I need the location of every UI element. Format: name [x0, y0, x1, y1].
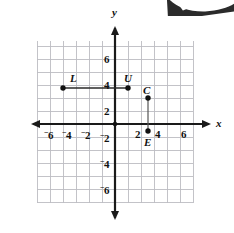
y-tick-6: 6	[104, 54, 110, 65]
point-U	[125, 85, 130, 90]
point-E	[145, 128, 150, 133]
point-C	[145, 95, 150, 100]
x-tick-neg2: −2	[81, 129, 91, 141]
x-axis	[31, 120, 211, 128]
x-tick-6: 6	[181, 129, 187, 140]
x-tick-2: 2	[135, 129, 141, 140]
y-tick-neg4: −4	[100, 158, 110, 170]
y-tick-neg6: −6	[100, 184, 110, 196]
y-tick-2: 2	[104, 106, 110, 117]
plot-area	[0, 0, 234, 233]
y-tick-4: 4	[104, 80, 110, 91]
x-tick-4: 4	[155, 129, 161, 140]
point-label-U: U	[124, 73, 132, 84]
point-label-L: L	[70, 73, 77, 84]
x-tick-neg6: −6	[44, 129, 54, 141]
coordinate-plane-figure: y x −6 −4 −2 2 4 6 6 4 2 −2 −4 −6 L U C …	[0, 0, 234, 233]
point-L	[60, 85, 65, 90]
origin-dot	[113, 122, 117, 126]
y-axis-label: y	[112, 7, 117, 18]
x-tick-neg4: −4	[62, 129, 72, 141]
x-axis-label: x	[216, 118, 222, 129]
point-label-E: E	[144, 137, 151, 148]
y-tick-neg2: −2	[100, 132, 110, 144]
point-label-C: C	[143, 85, 150, 96]
